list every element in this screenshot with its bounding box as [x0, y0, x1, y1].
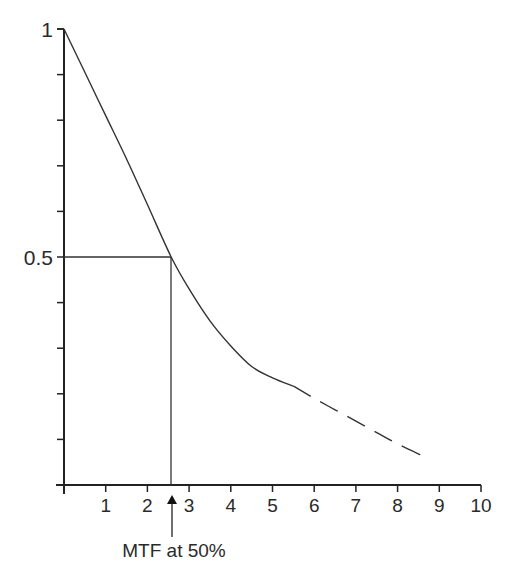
annotation-mtf50: MTF at 50%	[122, 540, 226, 561]
mtf-curve-dashed	[293, 386, 422, 456]
y-label-0-5: 0.5	[24, 246, 53, 269]
x-tick-label: 1	[100, 495, 111, 516]
mtf-chart: 12345678910 1 0.5 MTF at 50%	[0, 0, 522, 580]
x-tick-label: 6	[309, 495, 320, 516]
y-label-1: 1	[41, 18, 53, 41]
x-tick-label: 2	[142, 495, 153, 516]
x-tick-label: 7	[351, 495, 362, 516]
x-tick-label: 10	[470, 495, 491, 516]
x-tick-label: 9	[434, 495, 445, 516]
y-axis-ticks	[57, 29, 64, 439]
x-axis-ticks: 12345678910	[100, 485, 491, 516]
arrow-up-icon	[167, 495, 177, 504]
mtf-curve-solid	[64, 29, 293, 386]
x-tick-label: 4	[226, 495, 237, 516]
x-tick-label: 3	[184, 495, 195, 516]
x-tick-label: 5	[267, 495, 278, 516]
x-tick-label: 8	[392, 495, 403, 516]
